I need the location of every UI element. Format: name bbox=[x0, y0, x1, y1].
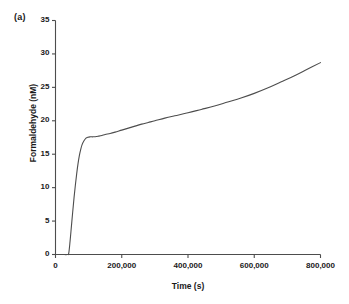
data-series-line bbox=[56, 63, 321, 255]
plot-area bbox=[0, 0, 349, 304]
y-tick-label: 15 bbox=[24, 149, 50, 158]
chart-figure: (a) Formaldehyde (nM) Time (s) 051015202… bbox=[0, 0, 349, 304]
axes bbox=[56, 21, 321, 255]
x-tick-label: 800,000 bbox=[291, 261, 349, 270]
x-tick-label: 600,000 bbox=[224, 261, 284, 270]
y-tick-label: 0 bbox=[24, 249, 50, 258]
axis-ticks bbox=[52, 21, 321, 259]
y-tick-label: 30 bbox=[24, 48, 50, 57]
y-tick-label: 35 bbox=[24, 15, 50, 24]
x-tick-label: 0 bbox=[26, 261, 86, 270]
y-tick-label: 20 bbox=[24, 115, 50, 124]
y-tick-label: 5 bbox=[24, 216, 50, 225]
y-tick-label: 10 bbox=[24, 182, 50, 191]
x-tick-label: 400,000 bbox=[158, 261, 218, 270]
x-tick-label: 200,000 bbox=[92, 261, 152, 270]
y-tick-label: 25 bbox=[24, 82, 50, 91]
